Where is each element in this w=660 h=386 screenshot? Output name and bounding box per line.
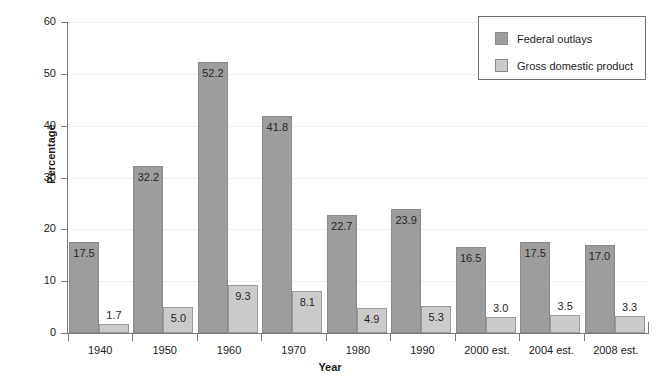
x-tick <box>390 333 391 341</box>
x-tick-label: 2000 est. <box>455 344 519 356</box>
x-tick <box>68 333 69 341</box>
y-tick <box>61 126 68 127</box>
y-axis-title: Percentage <box>45 94 57 214</box>
bar <box>486 317 516 333</box>
y-tick <box>61 22 68 23</box>
bar-value-label: 41.8 <box>259 122 295 133</box>
x-tick-label: 1980 <box>326 344 390 356</box>
x-tick <box>261 333 262 341</box>
x-tick <box>584 333 585 341</box>
bar-value-label: 3.0 <box>483 303 519 314</box>
x-axis-title: Year <box>0 361 660 373</box>
bar-value-label: 17.5 <box>517 248 553 259</box>
x-tick-label: 1970 <box>261 344 325 356</box>
x-tick <box>132 333 133 341</box>
legend-label: Federal outlays <box>517 33 592 45</box>
bar-chart: 17.51.732.25.052.29.341.88.122.74.923.95… <box>0 0 660 386</box>
x-tick-label: 1960 <box>197 344 261 356</box>
bar <box>198 62 228 333</box>
legend-item[interactable]: Gross domestic product <box>495 55 645 76</box>
x-tick-label: 2008 est. <box>584 344 648 356</box>
bar <box>327 215 357 333</box>
legend-label: Gross domestic product <box>517 60 633 72</box>
y-tick <box>61 333 68 334</box>
x-tick <box>455 333 456 341</box>
y-tick-label: 0 <box>16 327 56 338</box>
bar <box>262 116 292 333</box>
bar <box>615 316 645 333</box>
bar-value-label: 52.2 <box>195 68 231 79</box>
y-tick-label: 50 <box>16 68 56 79</box>
x-tick-label: 2004 est. <box>519 344 583 356</box>
y-tick <box>61 229 68 230</box>
bar-value-label: 8.1 <box>289 297 325 308</box>
y-tick <box>61 281 68 282</box>
x-tick-label: 1990 <box>390 344 454 356</box>
bar-value-label: 17.5 <box>66 248 102 259</box>
x-axis-right-cap <box>648 322 649 334</box>
x-tick <box>326 333 327 341</box>
bar-value-label: 4.9 <box>354 314 390 325</box>
x-tick-label: 1940 <box>68 344 132 356</box>
bar-value-label: 3.3 <box>612 302 648 313</box>
legend-item[interactable]: Federal outlays <box>495 28 645 49</box>
bar <box>133 166 163 333</box>
x-tick <box>519 333 520 341</box>
bar-value-label: 17.0 <box>582 251 618 262</box>
bar-value-label: 32.2 <box>130 172 166 183</box>
x-axis-line <box>67 333 649 334</box>
bar <box>99 324 129 333</box>
y-tick-label: 20 <box>16 223 56 234</box>
y-tick-label: 60 <box>16 16 56 27</box>
bar-value-label: 5.3 <box>418 312 454 323</box>
x-tick <box>197 333 198 341</box>
legend-swatch-icon <box>495 59 508 72</box>
legend-swatch-icon <box>495 32 508 45</box>
bar-value-label: 9.3 <box>225 291 261 302</box>
y-tick-label: 10 <box>16 275 56 286</box>
bar-value-label: 1.7 <box>96 310 132 321</box>
y-tick <box>61 74 68 75</box>
y-tick <box>61 178 68 179</box>
gridline <box>68 126 648 127</box>
bar-value-label: 3.5 <box>547 301 583 312</box>
x-tick-label: 1950 <box>132 344 196 356</box>
bar-value-label: 23.9 <box>388 215 424 226</box>
bar-value-label: 22.7 <box>324 221 360 232</box>
bar <box>391 209 421 333</box>
chart-legend: Federal outlaysGross domestic product <box>478 16 646 80</box>
bar-value-label: 16.5 <box>453 253 489 264</box>
bar <box>550 315 580 333</box>
bar-value-label: 5.0 <box>160 313 196 324</box>
